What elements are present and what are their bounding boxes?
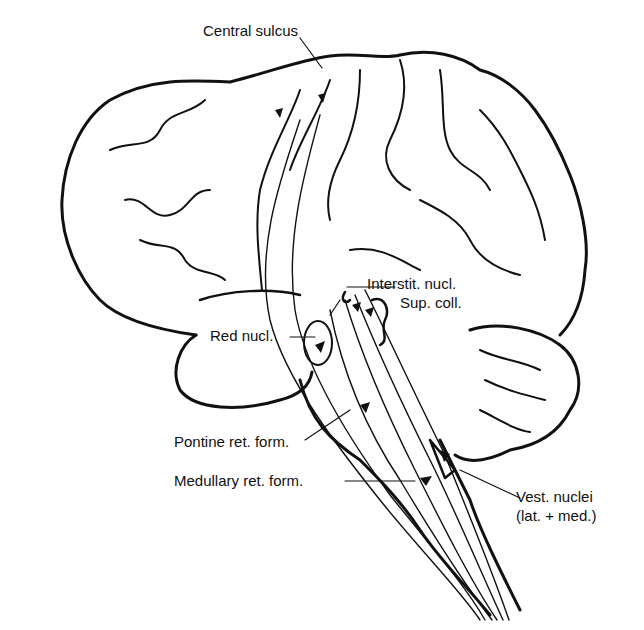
brain-diagram xyxy=(0,0,644,630)
label-pontine-reticular: Pontine ret. form. xyxy=(174,433,289,450)
label-interstitial-nucleus: Interstit. nucl. xyxy=(367,275,456,292)
label-red-nucleus: Red nucl. xyxy=(210,327,273,344)
label-central-sulcus: Central sulcus xyxy=(203,22,298,39)
label-vestibular-nuclei-sub: (lat. + med.) xyxy=(516,507,596,524)
label-superior-colliculus: Sup. coll. xyxy=(400,294,462,311)
neuron-icon xyxy=(365,307,374,317)
neuron-icon xyxy=(315,341,325,353)
neuron-icon xyxy=(275,108,283,118)
temporal-lobe xyxy=(176,335,312,407)
red-nucleus xyxy=(304,321,332,365)
label-medullary-reticular: Medullary ret. form. xyxy=(174,472,303,489)
label-vestibular-nuclei: Vest. nuclei xyxy=(516,488,593,505)
